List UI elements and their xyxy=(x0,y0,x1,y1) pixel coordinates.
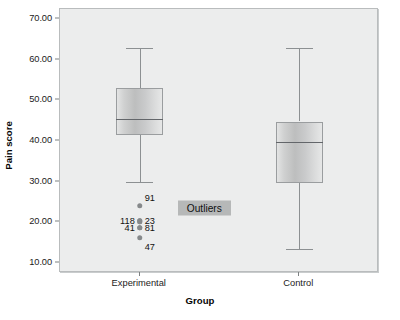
whisker-upper xyxy=(140,48,141,88)
x-tick-mark xyxy=(139,272,140,276)
y-tick-label: 70.00 xyxy=(2,13,52,23)
outlier-label: 41 xyxy=(125,223,135,233)
outliers-annotation: Outliers xyxy=(178,201,231,216)
whisker-cap-lower xyxy=(286,249,313,250)
whisker-lower xyxy=(140,135,141,182)
box-experimental xyxy=(116,88,163,135)
outlier-marker xyxy=(137,218,143,224)
median-line xyxy=(276,142,323,144)
outlier-label: 47 xyxy=(145,242,155,252)
whisker-lower xyxy=(299,183,300,250)
y-tick-label: 60.00 xyxy=(2,54,52,64)
y-tick-label: 40.00 xyxy=(2,135,52,145)
y-tick-label: 30.00 xyxy=(2,176,52,186)
box-control xyxy=(276,122,323,183)
outlier-label: 81 xyxy=(145,223,155,233)
whisker-cap-upper xyxy=(126,48,153,49)
x-tick-mark xyxy=(298,272,299,276)
y-tick-label: 20.00 xyxy=(2,216,52,226)
boxplot-chart: Pain score 10.0020.0030.0040.0050.0060.0… xyxy=(0,0,400,320)
y-tick-label: 50.00 xyxy=(2,94,52,104)
y-tick-label: 10.00 xyxy=(2,257,52,267)
y-axis-title: Pain score xyxy=(3,121,14,170)
outlier-label: 91 xyxy=(145,193,155,203)
outlier-marker xyxy=(137,225,143,231)
whisker-upper xyxy=(299,48,300,121)
plot-area: 9123118814147 Outliers xyxy=(59,8,378,272)
median-line xyxy=(116,119,163,121)
outlier-marker xyxy=(137,235,143,241)
whisker-cap-lower xyxy=(126,182,153,183)
x-tick-label-experimental: Experimental xyxy=(112,278,166,288)
whisker-cap-upper xyxy=(286,48,313,49)
x-axis-title: Group xyxy=(186,295,215,306)
x-tick-label-control: Control xyxy=(283,278,313,288)
outlier-marker xyxy=(137,203,143,209)
